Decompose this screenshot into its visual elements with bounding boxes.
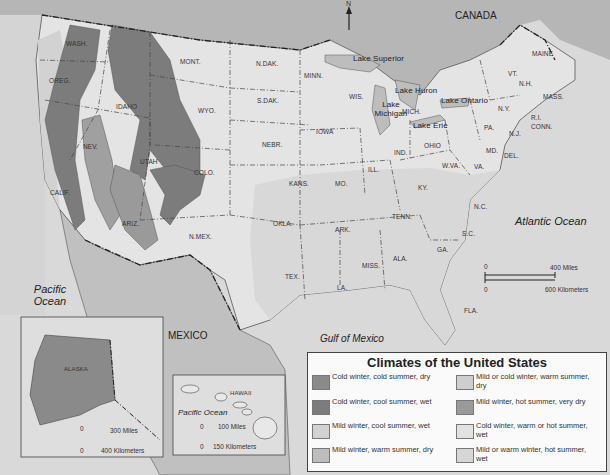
main-scale-zero: 0 [484,263,488,270]
alaska-scale-zero: 0 [80,425,84,432]
state-label-wis: WIS. [349,93,363,100]
legend-swatch [456,375,474,390]
state-label-conn: CONN. [531,123,552,130]
lake-label-superior: Lake Superior [353,54,404,63]
legend-item: Mild winter, hot summer, very dry [454,396,596,418]
country-label-mexico: MEXICO [168,330,207,341]
legend-label: Mild or warm winter, hot summer, wet [476,445,598,463]
state-label-nc: N.C. [474,203,487,210]
ocean-label-gulf: Gulf of Mexico [320,333,384,344]
state-label-colo: COLO. [194,169,215,176]
state-label-ind: IND. [394,149,407,156]
legend-item: Mild winter, cool summer, wet [310,420,452,442]
legend-swatch [312,400,330,415]
state-label-hawaii: HAWAII [230,390,252,396]
legend-item: Mild or cold winter, warm summer, dry [454,371,596,393]
state-label-alaska: ALASKA [64,366,88,372]
legend-title: Climates of the United States [308,355,606,370]
state-label-maine: MAINE [532,50,553,57]
ocean-label-pacific: Pacific Ocean [30,283,70,307]
state-label-del: DEL. [504,152,519,159]
state-label-sc: S.C. [462,230,475,237]
main-scale-miles: 400 Miles [550,264,578,271]
state-label-nh: N.H. [519,80,532,87]
state-label-wash: WASH. [66,40,88,47]
state-label-ga: GA. [437,246,449,253]
state-label-kans: KANS. [289,180,309,187]
state-label-ri: R.I. [531,114,542,121]
state-label-minn: MINN. [304,72,323,79]
state-label-wyo: WYO. [198,107,216,114]
state-label-va: VA. [474,163,484,170]
legend-item: Mild winter, warm summer, dry [310,444,452,466]
state-label-nmex: N.MEX. [189,233,212,240]
legend-swatch [312,448,330,463]
lake-label-erie: Lake Erie [413,121,448,130]
state-label-utah: UTAH [140,158,158,165]
state-label-wva: W.VA. [442,162,460,169]
legend-label: Mild winter, hot summer, very dry [476,397,598,406]
legend-item: Cold winter, cold summer, dry [310,371,452,393]
legend-swatch [456,424,474,439]
state-label-mont: MONT. [180,58,201,65]
state-label-iowa: IOWA [316,128,334,135]
ocean-label-pacific-hawaii: Pacific Ocean [178,408,227,417]
legend-swatch [312,424,330,439]
state-label-ndak: N.DAK. [256,60,278,67]
north-arrow-label: N [346,0,351,7]
state-label-ky: KY. [418,184,428,191]
state-label-mo: MO. [335,180,348,187]
lake-label-huron: Lake Huron [395,86,437,95]
state-label-sdak: S.DAK. [257,97,279,104]
main-scale-km: 600 Kilometers [545,286,588,293]
legend-swatch [312,375,330,390]
state-label-ill: ILL. [368,166,379,173]
state-label-pa: PA. [484,124,494,131]
legend-swatch [456,400,474,415]
legend-item: Mild or warm winter, hot summer, wet [454,444,596,466]
legend-item: Cold winter, warm or hot summer, wet [454,420,596,442]
alaska-scale-zero-km: 0 [80,447,84,454]
state-label-ariz: ARIZ. [122,220,139,227]
lake-label-ontario: Lake Ontario [441,96,488,105]
hawaii-scale-zero-km: 0 [200,443,204,450]
state-label-tenn: TENN. [392,213,412,220]
state-label-nj: N.J. [509,130,521,137]
legend-label: Mild winter, warm summer, dry [332,445,454,454]
alaska-scale-miles: 300 Miles [110,427,138,434]
state-label-la: LA. [337,284,347,291]
main-scale-zero-km: 0 [484,286,488,293]
alaska-scale-km: 400 Kilometers [101,447,144,454]
country-label-canada: CANADA [455,10,497,21]
state-label-nebr: NEBR. [262,141,282,148]
hawaii-scale-km: 150 Kilometers [213,443,256,450]
state-label-ohio: OHIO [424,142,441,149]
legend-label: Mild winter, cool summer, wet [332,421,454,430]
state-label-nev: NEV. [83,143,98,150]
state-label-mass: MASS. [543,93,564,100]
state-label-ark: ARK. [335,226,351,233]
legend-item: Cold winter, cool summer, wet [310,396,452,418]
legend-label: Cold winter, warm or hot summer, wet [476,421,598,439]
legend: Climates of the United States Cold winte… [307,352,607,472]
state-label-ala: ALA. [393,255,408,262]
state-label-idaho: IDAHO [116,103,137,110]
state-label-okla: OKLA. [273,220,293,227]
main-scale-bar [485,272,555,283]
state-label-vt: VT. [508,70,518,77]
state-label-mich: MICH. [402,108,421,115]
state-label-oreg: OREG. [49,77,70,84]
legend-label: Mild or cold winter, warm summer, dry [476,372,598,390]
legend-label: Cold winter, cold summer, dry [332,372,454,381]
state-label-md: MD. [486,147,498,154]
legend-label: Cold winter, cool summer, wet [332,397,454,406]
state-label-tex: TEX. [285,273,300,280]
state-label-miss: MISS. [362,262,380,269]
state-label-calif: CALIF. [50,189,70,196]
hawaii-scale-zero: 0 [200,423,204,430]
legend-swatch [456,448,474,463]
ocean-label-atlantic: Atlantic Ocean [515,215,587,227]
state-label-fla: FLA. [464,307,478,314]
hawaii-scale-miles: 100 Miles [218,423,246,430]
humid-subtropical-zone [250,168,500,345]
